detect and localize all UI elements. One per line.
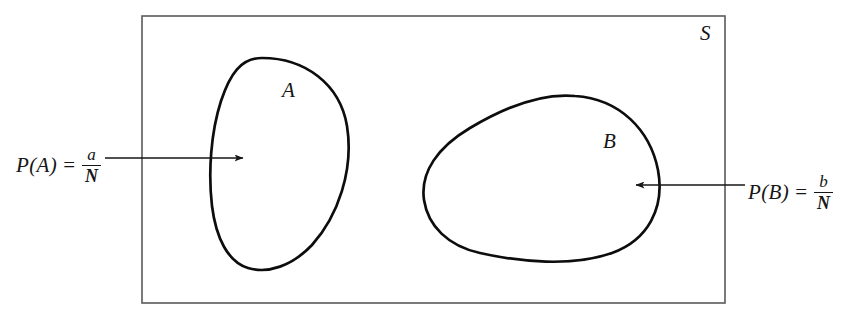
probability-b-numerator: b xyxy=(816,173,831,192)
probability-b-denominator: N xyxy=(814,193,833,214)
probability-b-annotation: P(B) = b N xyxy=(748,172,833,213)
event-region-a-label: A xyxy=(282,80,295,101)
probability-a-numerator: a xyxy=(84,146,99,165)
probability-b-lhs: P(B) xyxy=(748,182,789,203)
probability-a-denominator: N xyxy=(82,166,101,187)
event-region-a-outline xyxy=(210,58,348,270)
event-region-b-label: B xyxy=(603,131,616,152)
sample-space-label: S xyxy=(700,23,711,44)
probability-b-equals-sign: = xyxy=(795,182,807,203)
probability-a-annotation: P(A) = a N xyxy=(16,145,101,186)
probability-a-lhs: P(A) xyxy=(16,155,57,176)
probability-b-fraction: b N xyxy=(814,173,833,214)
probability-a-fraction: a N xyxy=(82,146,101,187)
event-region-b-outline xyxy=(423,96,659,262)
probability-diagram-canvas xyxy=(0,0,860,320)
probability-a-equals-sign: = xyxy=(63,155,75,176)
